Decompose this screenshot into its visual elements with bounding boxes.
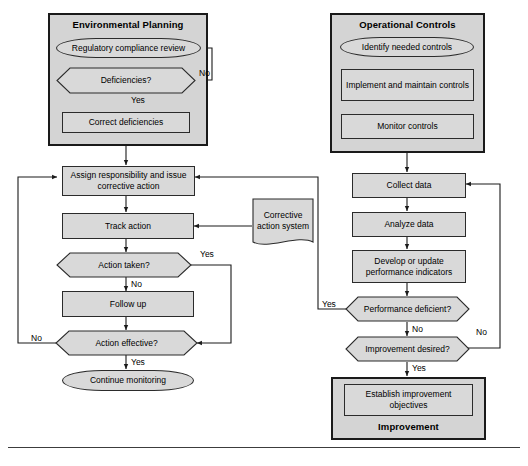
edge-label-performance-deficient-yes: Yes xyxy=(322,299,336,309)
node-label: Improvement desired? xyxy=(365,344,450,355)
edge-label-deficiencies-no: No xyxy=(199,68,210,78)
edge-label-action-effective-yes: Yes xyxy=(131,357,145,367)
node-label: Corrective action system xyxy=(252,210,314,232)
edge-label-action-taken-yes: Yes xyxy=(200,249,214,259)
node-label: Action effective? xyxy=(95,338,157,349)
node-continue-monitoring[interactable]: Continue monitoring xyxy=(62,370,194,391)
node-label: Establish improvement objectives xyxy=(348,389,469,410)
node-deficiencies[interactable]: Deficiencies? xyxy=(56,67,196,94)
bottom-divider xyxy=(8,447,520,448)
node-label: Continue monitoring xyxy=(90,375,166,386)
node-establish-improvement-objectives[interactable]: Establish improvement objectives xyxy=(344,384,473,416)
node-corrective-action-system[interactable]: Corrective action system xyxy=(252,198,314,250)
node-label: Collect data xyxy=(387,180,432,191)
node-collect-data[interactable]: Collect data xyxy=(352,173,466,198)
node-label: Correct deficiencies xyxy=(89,117,164,128)
node-monitor-controls[interactable]: Monitor controls xyxy=(341,114,474,139)
group-title-environmental-planning: Environmental Planning xyxy=(48,19,208,30)
node-label: Identify needed controls xyxy=(362,42,452,53)
node-performance-deficient[interactable]: Performance deficient? xyxy=(345,296,470,322)
node-label: Regulatory compliance review xyxy=(72,43,185,54)
node-action-effective[interactable]: Action effective? xyxy=(55,330,198,356)
edge-label-deficiencies-yes: Yes xyxy=(131,95,145,105)
flowchart-canvas: Environmental Planning Regulatory compli… xyxy=(0,0,528,466)
node-develop-update-indicators[interactable]: Develop or update performance indicators xyxy=(352,250,466,283)
node-correct-deficiencies[interactable]: Correct deficiencies xyxy=(62,112,190,133)
node-label: Performance deficient? xyxy=(364,304,451,315)
node-identify-needed-controls[interactable]: Identify needed controls xyxy=(340,37,474,57)
node-label: Track action xyxy=(105,221,151,232)
node-label: Follow up xyxy=(110,299,146,310)
edge-label-improvement-desired-yes: Yes xyxy=(412,363,426,373)
node-analyze-data[interactable]: Analyze data xyxy=(352,212,466,237)
node-label: Develop or update performance indicators xyxy=(356,256,462,277)
edge-label-action-effective-no: No xyxy=(31,333,42,343)
node-improvement-desired[interactable]: Improvement desired? xyxy=(345,336,470,362)
node-label: Analyze data xyxy=(384,219,433,230)
node-label: Assign responsibility and issue correcti… xyxy=(66,170,191,191)
group-title-operational-controls: Operational Controls xyxy=(330,19,485,30)
node-label: Monitor controls xyxy=(377,121,437,132)
node-label: Deficiencies? xyxy=(101,75,152,86)
edge-label-action-taken-no: No xyxy=(131,279,142,289)
edge-label-improvement-desired-no: No xyxy=(476,327,487,337)
node-regulatory-compliance-review[interactable]: Regulatory compliance review xyxy=(56,38,201,58)
node-label: Implement and maintain controls xyxy=(346,80,469,91)
node-track-action[interactable]: Track action xyxy=(62,213,194,239)
node-label: Action taken? xyxy=(98,260,150,271)
node-assign-responsibility[interactable]: Assign responsibility and issue correcti… xyxy=(62,166,195,196)
group-title-improvement: Improvement xyxy=(331,421,486,432)
node-follow-up[interactable]: Follow up xyxy=(62,291,194,317)
node-action-taken[interactable]: Action taken? xyxy=(56,252,192,278)
edge-label-performance-deficient-no: No xyxy=(412,324,423,334)
node-implement-maintain-controls[interactable]: Implement and maintain controls xyxy=(341,69,474,101)
